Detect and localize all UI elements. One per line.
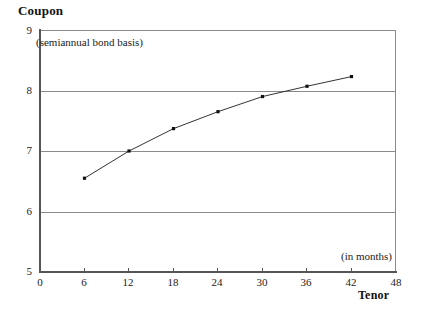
x-tick-label-36: 36: [293, 277, 319, 288]
x-tick-label-18: 18: [160, 277, 186, 288]
x-tick-label-30: 30: [249, 277, 275, 288]
x-tick-mark-18: [173, 268, 174, 273]
x-axis-line: [39, 271, 397, 273]
x-tick-mark-6: [84, 268, 85, 273]
chart-page: Coupon 9 8 7 6 5 0 6 12 18 24 30 36 42 4…: [0, 0, 424, 314]
y-tick-label-5: 5: [10, 266, 32, 277]
gridline-y-8: [40, 91, 396, 92]
y-tick-label-8: 8: [10, 85, 32, 96]
gridline-y-7: [40, 151, 396, 152]
semiannual-basis-note: (semiannual bond basis): [36, 36, 143, 48]
plot-area: [40, 30, 396, 272]
x-tick-mark-12: [128, 268, 129, 273]
y-tick-label-9: 9: [10, 25, 32, 36]
y-axis-title: Coupon: [18, 3, 63, 19]
x-tick-mark-30: [262, 268, 263, 273]
x-tick-mark-42: [351, 268, 352, 273]
x-tick-label-24: 24: [204, 277, 230, 288]
y-tick-label-6: 6: [10, 206, 32, 217]
y-axis-line: [39, 29, 41, 273]
gridline-y-6: [40, 212, 396, 213]
x-tick-label-0: 0: [27, 277, 53, 288]
in-months-note: (in months): [341, 250, 392, 262]
x-tick-label-6: 6: [71, 277, 97, 288]
x-axis-title: Tenor: [358, 288, 389, 303]
x-tick-label-48: 48: [383, 277, 409, 288]
x-tick-label-42: 42: [338, 277, 364, 288]
x-tick-label-12: 12: [115, 277, 141, 288]
y-tick-label-7: 7: [10, 145, 32, 156]
x-tick-mark-36: [306, 268, 307, 273]
x-tick-mark-24: [217, 268, 218, 273]
